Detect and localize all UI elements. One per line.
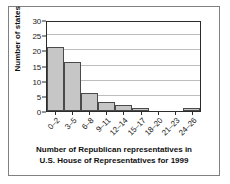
x-tick-mark bbox=[158, 112, 159, 115]
bar bbox=[47, 47, 64, 111]
bar bbox=[115, 105, 132, 111]
bar-slot bbox=[81, 22, 98, 111]
x-tick-slot: 24–26 bbox=[184, 112, 201, 146]
x-tick-mark bbox=[89, 112, 90, 115]
bar-slot bbox=[47, 22, 64, 111]
bar-slot bbox=[115, 22, 132, 111]
chart-figure: Number of states 051015202530 0–23–56–89… bbox=[8, 6, 220, 176]
x-tick-slot: 0–2 bbox=[46, 112, 63, 146]
caption-line-1: Number of Republican representatives in bbox=[15, 144, 213, 155]
bar-slot bbox=[98, 22, 115, 111]
bar-slot bbox=[149, 22, 166, 111]
caption-line-2: U.S. House of Representatives for 1999 bbox=[15, 155, 213, 166]
x-tick-mark bbox=[123, 112, 124, 115]
bar-slot bbox=[183, 22, 200, 111]
bar bbox=[98, 102, 115, 111]
bar-series bbox=[47, 22, 200, 111]
x-tick-mark bbox=[175, 112, 176, 115]
x-tick-label: 3–5 bbox=[63, 116, 78, 131]
y-tick-label: 15 bbox=[33, 62, 42, 71]
chart-caption: Number of Republican representatives in … bbox=[15, 144, 213, 166]
bar bbox=[64, 62, 81, 111]
bar bbox=[81, 93, 98, 111]
bar-slot bbox=[132, 22, 149, 111]
bar-slot bbox=[166, 22, 183, 111]
bar-slot bbox=[64, 22, 81, 111]
y-tick-label: 0 bbox=[37, 108, 41, 117]
plot-area bbox=[46, 21, 201, 112]
y-axis-ticks: 051015202530 bbox=[9, 21, 46, 112]
x-tick-label: 6–8 bbox=[80, 116, 95, 131]
y-tick-label: 30 bbox=[33, 17, 42, 26]
x-tick-mark bbox=[192, 112, 193, 115]
bar bbox=[183, 108, 200, 111]
x-tick-mark bbox=[141, 112, 142, 115]
y-tick-label: 20 bbox=[33, 47, 42, 56]
x-tick-label: 0–2 bbox=[46, 116, 61, 131]
x-tick-mark bbox=[106, 112, 107, 115]
y-tick-label: 5 bbox=[37, 92, 41, 101]
x-tick-slot: 3–5 bbox=[63, 112, 80, 146]
y-tick-label: 25 bbox=[33, 32, 42, 41]
x-axis-ticks: 0–23–56–89–1112–1415–1718–2021–2324–26 bbox=[46, 112, 201, 146]
x-tick-mark bbox=[72, 112, 73, 115]
bar bbox=[132, 108, 149, 111]
y-tick-label: 10 bbox=[33, 77, 42, 86]
